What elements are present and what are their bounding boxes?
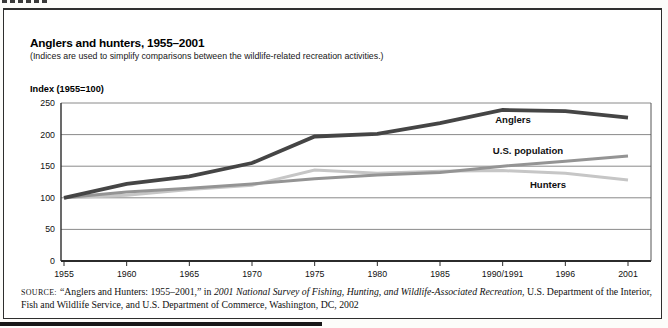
- source-citation: SOURCE:“Anglers and Hunters: 1955–2001,”…: [21, 286, 655, 312]
- x-tick-label: 1980: [368, 269, 388, 279]
- x-tick-label: 1970: [242, 269, 262, 279]
- figure-subtitle: (Indices are used to simplify comparison…: [30, 51, 384, 61]
- y-tick-label: 50: [45, 224, 55, 234]
- x-tick-label: 1985: [430, 269, 450, 279]
- series-label-u-s-population: U.S. population: [493, 145, 563, 156]
- figure-box: Anglers and hunters, 1955–2001 (Indices …: [3, 8, 662, 319]
- x-tick-label: 1960: [117, 269, 137, 279]
- y-tick-label: 150: [40, 161, 55, 171]
- x-tick-label: 1955: [54, 269, 74, 279]
- series-label-hunters: Hunters: [530, 179, 566, 190]
- series-label-anglers: Anglers: [495, 114, 531, 125]
- x-tick-label: 1996: [556, 269, 576, 279]
- x-tick-label: 1975: [305, 269, 325, 279]
- source-text-before: “Anglers and Hunters: 1955–2001,” in: [60, 286, 214, 297]
- partial-bottom-rule: [0, 322, 322, 326]
- x-tick-label: 1965: [180, 269, 200, 279]
- x-tick-label: 1990/1991: [482, 269, 524, 279]
- y-tick-label: 200: [40, 130, 55, 140]
- scanned-page: Anglers and hunters, 1955–2001 (Indices …: [0, 0, 668, 328]
- chart-svg: 0501001502002501955196019651970197519801…: [21, 98, 661, 288]
- y-tick-label: 100: [40, 193, 55, 203]
- y-tick-label: 250: [40, 98, 55, 108]
- source-label: SOURCE:: [21, 288, 57, 297]
- y-tick-label: 0: [50, 256, 55, 266]
- figure-title: Anglers and hunters, 1955–2001: [30, 36, 204, 50]
- clipped-text-fragment-top: [2, 0, 50, 3]
- y-axis-title: Index (1955=100): [30, 84, 104, 94]
- x-tick-label: 2001: [618, 269, 638, 279]
- source-italic-title: 2001 National Survey of Fishing, Hunting…: [214, 286, 522, 297]
- series-line-u-s-population: [64, 156, 628, 198]
